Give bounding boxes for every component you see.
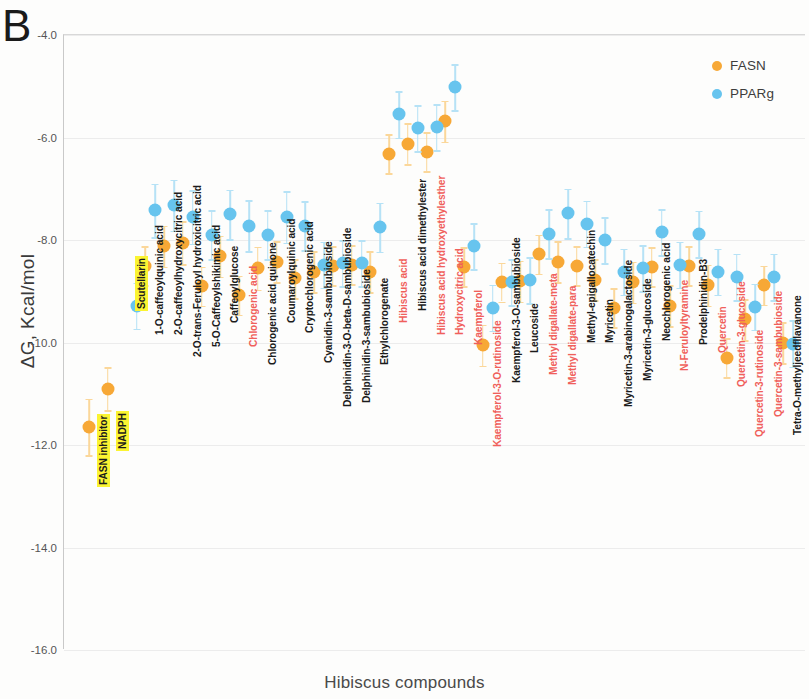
category-label: Hibiscus acid xyxy=(399,259,409,323)
data-point xyxy=(693,227,706,240)
data-point xyxy=(401,137,414,150)
category-label: Chlorogenic acid xyxy=(249,266,259,347)
category-label-text: Quercetin xyxy=(717,306,728,353)
error-bar-cap xyxy=(227,239,234,241)
error-bar-cap xyxy=(246,251,253,253)
data-point xyxy=(674,258,687,271)
data-point xyxy=(768,270,781,283)
error-bar-cap xyxy=(648,247,655,249)
data-point xyxy=(749,300,762,313)
error-bar-cap xyxy=(546,258,553,260)
data-point xyxy=(420,145,433,158)
category-label-text: Tetra-O-methyljeedfllavanone xyxy=(792,295,803,435)
data-point xyxy=(655,226,668,239)
error-bar-cap xyxy=(433,104,440,106)
category-label: N-Feruloyltyramine xyxy=(680,280,690,371)
error-bar-cap xyxy=(283,191,290,193)
error-bar-cap xyxy=(254,247,261,249)
category-label-text: Quercetin-3-sambubioside xyxy=(773,291,784,417)
category-label-text: NADPH xyxy=(116,411,129,451)
category-label: Delphinidin-3-O-beta-D-sambubioside xyxy=(343,228,353,407)
chart-legend: FASNPPARg xyxy=(712,58,774,114)
category-label-text: Quercetin-3-glucoside xyxy=(736,282,747,387)
category-label: Quercetin-3-sambubioside xyxy=(774,291,784,417)
category-label-text: Quercetin-3-rutinoside xyxy=(754,330,765,437)
error-bar-cap xyxy=(658,209,665,211)
error-bar-cap xyxy=(367,251,374,253)
gridline xyxy=(64,35,805,36)
y-axis-title: ΔG, Kcal/mol xyxy=(17,221,39,401)
legend-item-fasn[interactable]: FASN xyxy=(712,58,774,73)
category-label-text: Delphinidin-3-O-beta-D-sambubioside xyxy=(342,228,353,407)
category-label-text: Scutellarin xyxy=(135,256,148,311)
error-bar-cap xyxy=(602,217,609,219)
category-label: Kaempferol-3-O-rutinoside xyxy=(493,320,503,447)
error-bar-cap xyxy=(752,284,759,286)
category-label-text: Hibiscus acid hydroxyethylesther xyxy=(436,176,447,335)
error-bar-cap xyxy=(414,151,421,153)
category-label: Kaempferol xyxy=(474,290,484,345)
error-bar-cap xyxy=(386,134,393,136)
error-bar-cap xyxy=(611,288,618,290)
data-point xyxy=(599,234,612,247)
category-label-text: Neochlorogenic acid xyxy=(661,243,672,341)
data-point xyxy=(224,208,237,221)
data-point xyxy=(533,248,546,261)
data-point xyxy=(243,219,256,232)
category-label-text: Delphinidin-3-sambubioside xyxy=(361,269,372,403)
data-point xyxy=(524,273,537,286)
legend-item-pparg[interactable]: PPARg xyxy=(712,86,774,101)
category-label-text: Coumaroylquinic acid xyxy=(286,219,297,323)
error-bar-cap xyxy=(471,223,478,225)
category-label-text: 1-O-caffeoylquinic acid xyxy=(154,225,165,335)
error-bar-cap xyxy=(86,455,93,457)
category-label: Cryptochlorogenic acid xyxy=(305,221,315,333)
error-bar-cap xyxy=(404,164,411,166)
error-bar-cap xyxy=(264,210,271,212)
category-label: Tetra-O-methyljeedfllavanone xyxy=(793,295,803,435)
data-point xyxy=(393,108,406,121)
error-bar-cap xyxy=(733,254,740,256)
data-point xyxy=(636,262,649,275)
category-label-text: Kaempferol-3-O-rutinoside xyxy=(492,320,503,447)
gridline xyxy=(64,445,805,446)
category-label: Myricetin-3-glucoside xyxy=(643,278,653,381)
error-bar-cap xyxy=(573,246,580,248)
error-bar-cap xyxy=(152,184,159,186)
error-bar-cap xyxy=(452,64,459,66)
category-label: Scutellarin xyxy=(137,256,147,311)
plot-area: -4.0-6.0-8.0-10.0-12.0-14.0-16.0 FASN in… xyxy=(63,34,805,649)
category-label: 5-O-Caffeoylshikimic acid xyxy=(212,225,222,347)
category-label-text: Hibiscus acid xyxy=(398,259,409,323)
category-label-text: Hydroxycitric acid xyxy=(454,248,465,335)
error-bar-cap xyxy=(208,210,215,212)
error-bar-cap xyxy=(498,302,505,304)
data-point xyxy=(468,240,481,253)
category-label-text: Ethylchlorogenate xyxy=(379,278,390,365)
category-label-text: Methyl digallate-meta xyxy=(548,274,559,376)
category-label: Delphinidin-3-sambubioside xyxy=(362,269,372,403)
error-bar-cap xyxy=(489,285,496,287)
y-tick-label: -4.0 xyxy=(0,29,57,41)
category-label: 2-O-trans-Feruloyl hydroxicitric acid xyxy=(193,185,203,357)
error-bar-cap xyxy=(723,377,730,379)
error-bar-cap xyxy=(564,238,571,240)
category-label-text: Kaempferol-3-O-sambubioside xyxy=(511,237,522,383)
data-point xyxy=(720,351,733,364)
error-bar-cap xyxy=(639,245,646,247)
legend-marker-icon xyxy=(712,61,722,71)
error-bar-cap xyxy=(386,173,393,175)
category-label: Quercetin xyxy=(718,306,728,353)
error-bar-cap xyxy=(564,189,571,191)
error-bar-cap xyxy=(554,241,561,243)
category-label: Quercetin-3-glucoside xyxy=(737,282,747,387)
category-label-text: Leucoside xyxy=(529,304,540,354)
error-bar-cap xyxy=(761,266,768,268)
error-bar-cap xyxy=(442,142,449,144)
error-bar-cap xyxy=(677,242,684,244)
error-bar-cap xyxy=(142,246,149,248)
category-label: Methyl digallate-para xyxy=(568,286,578,385)
error-bar-cap xyxy=(377,203,384,205)
category-label-text: Prodelphinidin-B3 xyxy=(698,259,709,345)
gridline xyxy=(64,650,805,651)
